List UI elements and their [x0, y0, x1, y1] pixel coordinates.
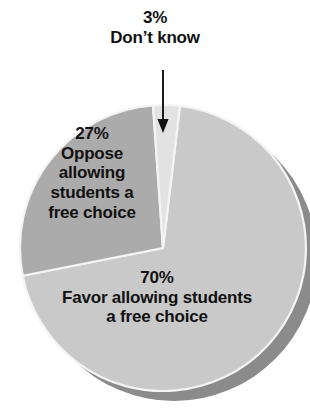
- pie-slice-oppose: [20, 105, 163, 275]
- pie-chart-graphic: [0, 0, 310, 417]
- pie-chart: 3% Don’t know 27% Oppose allowing studen…: [0, 0, 310, 417]
